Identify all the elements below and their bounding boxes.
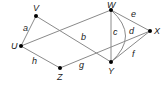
node-y xyxy=(109,60,113,64)
edge-label-h: h xyxy=(32,56,37,66)
edge-label-a: a xyxy=(23,23,28,33)
node-label-u: U xyxy=(11,41,18,51)
edge-label-c: c xyxy=(113,27,118,37)
node-x xyxy=(148,29,152,33)
node-label-x: X xyxy=(153,26,161,36)
edge-label-f: f xyxy=(132,49,136,59)
node-label-v: V xyxy=(33,3,40,13)
edge-h xyxy=(21,46,60,68)
node-u xyxy=(19,44,23,48)
edge-label-g: g xyxy=(79,60,84,70)
edge-label-d: d xyxy=(129,26,135,36)
node-label-w: W xyxy=(107,0,117,10)
edge-b xyxy=(36,16,111,62)
node-label-y: Y xyxy=(108,66,115,76)
node-v xyxy=(34,14,38,18)
node-z xyxy=(58,66,62,70)
node-label-z: Z xyxy=(56,72,63,82)
edge-label-b: b xyxy=(81,32,86,42)
edge-label-e: e xyxy=(131,9,136,19)
edge-g xyxy=(60,31,150,68)
graph-diagram: a b h g c d e f V U Z W Y X xyxy=(0,0,165,89)
